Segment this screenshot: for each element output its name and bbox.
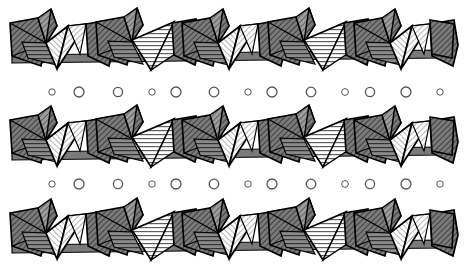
cation-circle [74, 179, 84, 189]
cation-circle [365, 179, 374, 188]
chain-bottom-right-cap [430, 210, 454, 248]
cation-circle [209, 87, 219, 97]
cation-circle [401, 87, 411, 97]
cation-circle [171, 87, 181, 97]
cation-circle [306, 87, 316, 97]
cation-circle [74, 87, 84, 97]
cation-circle [49, 89, 55, 95]
cation-circle [342, 181, 349, 188]
cation-circle [342, 89, 349, 96]
cation-circle [437, 181, 443, 187]
cation-circle [437, 89, 443, 95]
cation-circle [267, 87, 277, 97]
cation-circle [209, 179, 219, 189]
chain-middle-right-cap [430, 117, 454, 155]
cation-circle [365, 87, 374, 96]
cation-circle [113, 87, 122, 96]
cation-circle [113, 179, 122, 188]
cation-circle [149, 89, 155, 95]
polyhedral-chain-figure [0, 0, 464, 277]
cation-circle [401, 179, 411, 189]
cation-circle [49, 181, 55, 187]
cation-circle [306, 179, 316, 189]
structure-svg [0, 0, 464, 277]
cation-circle [245, 89, 251, 95]
cation-circle [149, 181, 155, 187]
cation-circle [267, 179, 277, 189]
cation-circle [171, 179, 181, 189]
cation-circle [245, 181, 251, 187]
chain-top-right-cap [430, 20, 454, 58]
